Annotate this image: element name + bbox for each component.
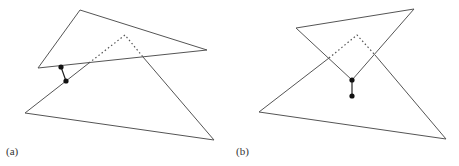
- vertex-dot: [63, 78, 68, 83]
- vertex-dot: [349, 93, 354, 98]
- diagram-canvas: [0, 0, 459, 166]
- upper-triangle: [38, 10, 207, 68]
- vertex-dot: [58, 64, 63, 69]
- lower-triangle-edge: [66, 63, 89, 81]
- panel-a: [25, 10, 214, 140]
- lower-triangle-edge: [25, 57, 214, 140]
- vertex-dot: [349, 77, 354, 82]
- panel-a-label: (a): [6, 145, 18, 157]
- panel-b-label: (b): [236, 145, 249, 157]
- hidden-edge-dotted: [89, 35, 143, 63]
- hidden-edge-dotted: [329, 35, 375, 58]
- panel-b: [259, 9, 446, 139]
